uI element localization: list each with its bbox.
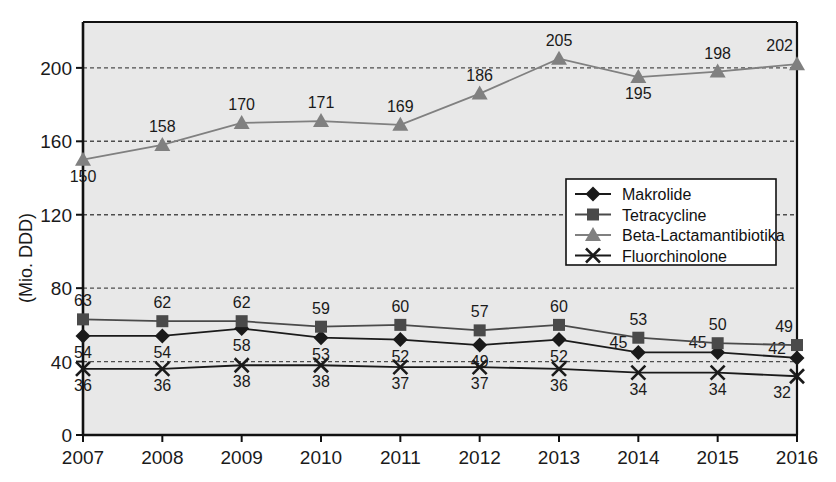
data-label: 34	[709, 381, 727, 398]
legend-label: Makrolide	[622, 186, 691, 203]
y-axis-tick-label: 40	[51, 352, 72, 373]
x-axis-tick-label: 2016	[776, 447, 818, 468]
square-marker-icon	[394, 319, 406, 331]
data-label: 53	[629, 311, 647, 328]
data-label: 38	[233, 373, 251, 390]
data-label: 45	[610, 334, 628, 351]
chart-container: 0408012016020020072008200920102011201220…	[0, 0, 836, 482]
x-axis-tick-label: 2011	[380, 447, 421, 468]
y-axis-tick-label: 120	[40, 205, 72, 226]
data-label: 62	[233, 294, 251, 311]
data-label: 170	[228, 96, 255, 113]
square-marker-icon	[632, 332, 644, 344]
y-axis-tick-label: 0	[61, 425, 72, 446]
line-chart: 0408012016020020072008200920102011201220…	[0, 0, 836, 482]
data-label: 49	[775, 318, 793, 335]
data-label: 60	[391, 298, 409, 315]
y-axis-tick-label: 200	[40, 58, 72, 79]
data-label: 57	[471, 303, 489, 320]
square-marker-icon	[474, 324, 486, 336]
data-label: 202	[766, 37, 793, 54]
x-axis-tick-label: 2009	[221, 447, 263, 468]
data-label: 62	[153, 294, 171, 311]
data-label: 54	[74, 344, 92, 361]
data-label: 54	[153, 344, 171, 361]
data-label: 32	[773, 384, 791, 401]
data-label: 205	[546, 32, 573, 49]
data-label: 37	[391, 375, 409, 392]
data-label: 42	[768, 340, 786, 357]
x-axis-tick-label: 2012	[459, 447, 501, 468]
data-label: 198	[704, 45, 731, 62]
legend-label: Fluorchinolone	[622, 248, 727, 265]
data-label: 36	[74, 377, 92, 394]
data-label: 150	[70, 168, 97, 185]
square-marker-icon	[712, 337, 724, 349]
square-marker-icon	[587, 209, 599, 221]
square-marker-icon	[553, 319, 565, 331]
data-label: 58	[233, 337, 251, 354]
square-marker-icon	[315, 321, 327, 333]
data-label: 59	[312, 300, 330, 317]
data-label: 34	[629, 381, 647, 398]
data-label: 37	[471, 375, 489, 392]
data-label: 36	[153, 377, 171, 394]
data-label: 171	[308, 94, 335, 111]
data-label: 60	[550, 298, 568, 315]
data-label: 36	[550, 377, 568, 394]
legend-item[interactable]: Fluorchinolone	[575, 248, 727, 265]
x-axis-tick-label: 2015	[697, 447, 739, 468]
data-label: 169	[387, 98, 414, 115]
x-axis-tick-label: 2013	[538, 447, 580, 468]
x-axis-tick-label: 2014	[617, 447, 660, 468]
square-marker-icon	[77, 313, 89, 325]
square-marker-icon	[156, 315, 168, 327]
data-label: 38	[312, 373, 330, 390]
x-axis-tick-label: 2008	[141, 447, 183, 468]
data-label: 195	[625, 85, 652, 102]
data-label: 63	[74, 292, 92, 309]
data-label: 158	[149, 118, 176, 135]
data-label: 186	[466, 67, 493, 84]
legend-label: Beta-Lactamantibiotika	[622, 227, 785, 244]
square-marker-icon	[236, 315, 248, 327]
legend: MakrolideTetracyclineBeta-Lactamantibiot…	[566, 179, 785, 265]
legend-label: Tetracycline	[622, 207, 707, 224]
square-marker-icon	[791, 339, 803, 351]
y-axis-title: (Mio. DDD)	[16, 213, 36, 303]
legend-item[interactable]: Makrolide	[575, 186, 691, 203]
x-axis-tick-label: 2010	[300, 447, 342, 468]
y-axis-tick-label: 80	[51, 278, 72, 299]
data-label: 50	[709, 316, 727, 333]
y-axis-tick-label: 160	[40, 131, 72, 152]
x-axis-tick-label: 2007	[62, 447, 104, 468]
